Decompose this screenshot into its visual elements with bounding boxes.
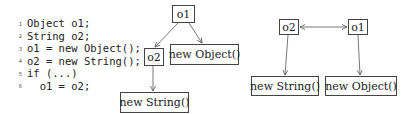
- left-node-new-string: new String(): [120, 92, 189, 113]
- left-node-o1: o1: [172, 5, 195, 23]
- left-node-o2: o2: [144, 48, 164, 66]
- right-node-new-object: new Object(): [325, 76, 397, 96]
- right-node-o1: o1: [348, 19, 368, 35]
- edge-o2-to-new-string: [285, 35, 288, 75]
- right-node-o2: o2: [279, 19, 299, 35]
- left-node-new-object: new Object(): [170, 44, 239, 65]
- edge-o1-to-new-object: [189, 23, 202, 43]
- edge-o1-to-new-object: [358, 35, 360, 75]
- right-node-new-string: new String(): [251, 76, 319, 96]
